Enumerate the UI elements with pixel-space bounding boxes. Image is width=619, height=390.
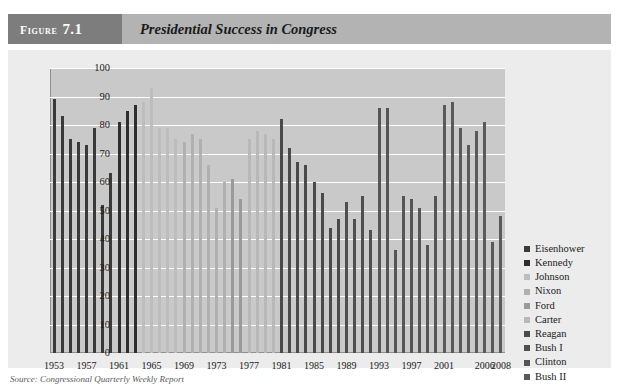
bar xyxy=(361,196,364,353)
bar xyxy=(231,179,234,353)
legend-swatch-icon xyxy=(524,260,530,266)
bar xyxy=(329,228,332,353)
bar xyxy=(345,202,348,353)
bar xyxy=(53,99,56,353)
x-tick-label: 2008 xyxy=(481,361,521,371)
legend-swatch-icon xyxy=(524,303,530,309)
bar xyxy=(126,111,129,353)
bar xyxy=(134,105,137,353)
legend-item[interactable]: Johnson xyxy=(524,270,585,284)
legend-item-label: Carter xyxy=(535,315,561,326)
bar xyxy=(166,128,169,353)
bar xyxy=(353,219,356,353)
y-tick-label: 10 xyxy=(70,319,110,330)
bar xyxy=(394,250,397,353)
legend-swatch-icon xyxy=(524,331,530,337)
bar xyxy=(215,208,218,353)
legend-item-label: Bush II xyxy=(535,372,566,383)
legend-item-label: Reagan xyxy=(535,329,567,340)
bar xyxy=(321,193,324,353)
legend-swatch-icon xyxy=(524,345,530,351)
bar xyxy=(256,131,259,353)
bar xyxy=(61,116,64,353)
bar xyxy=(101,205,104,353)
bar xyxy=(434,196,437,353)
legend-item[interactable]: Bush II xyxy=(524,370,585,384)
bar xyxy=(402,196,405,353)
legend-item[interactable]: Eisenhower xyxy=(524,242,585,256)
legend-item[interactable]: Clinton xyxy=(524,356,585,370)
bar xyxy=(499,216,502,353)
bar xyxy=(150,88,153,353)
bar xyxy=(223,182,226,353)
y-tick-label: 100 xyxy=(70,63,110,74)
y-tick-label: 60 xyxy=(70,177,110,188)
bar xyxy=(174,139,177,353)
legend-swatch-icon xyxy=(524,289,530,295)
bar xyxy=(313,182,316,353)
legend-item-label: Bush I xyxy=(535,343,563,354)
bar xyxy=(239,199,242,353)
legend-item[interactable]: Ford xyxy=(524,299,585,313)
figure-label-word: Figure xyxy=(20,24,57,36)
legend-item-label: Kennedy xyxy=(535,258,573,269)
chart-legend: EisenhowerKennedyJohnsonNixonFordCarterR… xyxy=(524,242,585,384)
bar xyxy=(280,119,283,353)
bar xyxy=(378,108,381,353)
legend-item[interactable]: Bush I xyxy=(524,341,585,355)
bar xyxy=(418,208,421,353)
legend-item[interactable]: Kennedy xyxy=(524,256,585,270)
figure-container: Figure 7.1 Presidential Success in Congr… xyxy=(0,0,619,390)
bar xyxy=(288,148,291,353)
bar xyxy=(491,242,494,353)
y-tick-label: 50 xyxy=(70,205,110,216)
y-tick-label: 70 xyxy=(70,148,110,159)
bar xyxy=(451,102,454,353)
legend-item-label: Ford xyxy=(535,301,555,312)
bar xyxy=(337,219,340,353)
bar xyxy=(199,139,202,353)
bar xyxy=(183,142,186,353)
legend-swatch-icon xyxy=(524,360,530,366)
y-tick-label: 30 xyxy=(70,262,110,273)
bar xyxy=(459,128,462,353)
bar xyxy=(207,165,210,353)
y-tick-label: 20 xyxy=(70,291,110,302)
figure-header-bar: Figure 7.1 Presidential Success in Congr… xyxy=(8,14,611,44)
y-tick-label: 40 xyxy=(70,234,110,245)
bar xyxy=(264,134,267,353)
legend-swatch-icon xyxy=(524,246,530,252)
bar xyxy=(191,134,194,353)
bar xyxy=(386,108,389,353)
bar xyxy=(272,139,275,353)
legend-item-label: Johnson xyxy=(535,272,569,283)
bar xyxy=(304,165,307,353)
y-tick-label: 80 xyxy=(70,120,110,131)
legend-item[interactable]: Nixon xyxy=(524,285,585,299)
bar xyxy=(443,105,446,353)
bar xyxy=(467,145,470,353)
bar xyxy=(369,230,372,353)
bar xyxy=(118,122,121,353)
legend-item-label: Nixon xyxy=(535,286,561,297)
bar xyxy=(158,128,161,353)
x-tick-label: 2001 xyxy=(424,361,464,371)
bar xyxy=(483,122,486,353)
bar xyxy=(475,131,478,353)
legend-item[interactable]: Reagan xyxy=(524,327,585,341)
legend-swatch-icon xyxy=(524,374,530,380)
bar xyxy=(248,139,251,353)
gridline xyxy=(50,68,505,69)
gridline xyxy=(50,97,505,98)
y-tick-label: 90 xyxy=(70,91,110,102)
legend-item-label: Clinton xyxy=(535,357,567,368)
figure-title: Presidential Success in Congress xyxy=(140,14,337,44)
legend-item[interactable]: Carter xyxy=(524,313,585,327)
legend-swatch-icon xyxy=(524,317,530,323)
bar xyxy=(296,162,299,353)
legend-item-label: Eisenhower xyxy=(535,244,585,255)
bar xyxy=(142,102,145,353)
plot-area xyxy=(50,68,505,353)
chart-panel: 0102030405060708090100 19531957196119651… xyxy=(8,50,611,368)
bar xyxy=(410,199,413,353)
